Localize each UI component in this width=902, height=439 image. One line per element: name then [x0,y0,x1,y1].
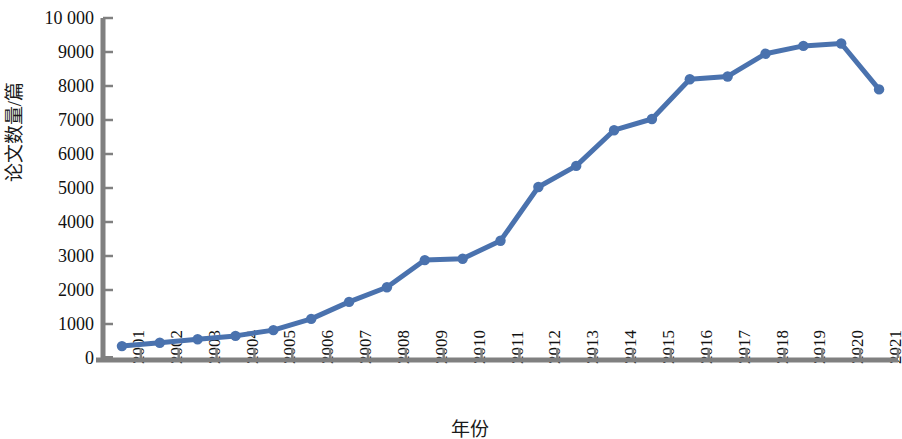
data-point [495,236,505,246]
data-point [192,334,202,344]
plot-area [0,0,902,439]
series-markers [117,38,885,351]
data-point [571,161,581,171]
data-series [117,38,885,351]
data-point [306,314,316,324]
x-axis-ticks [103,348,898,358]
axes [96,18,898,360]
data-point [722,71,732,81]
data-point [344,297,354,307]
data-point [874,84,884,94]
data-point [685,74,695,84]
data-point [420,255,430,265]
data-point [609,125,619,135]
series-line [122,44,879,347]
data-point [533,182,543,192]
data-point [230,331,240,341]
data-point [155,338,165,348]
data-point [798,41,808,51]
data-point [457,254,467,264]
data-point [647,114,657,124]
line-chart: 论文数量/篇 年份 010002000300040005000600070008… [0,0,902,439]
data-point [382,282,392,292]
data-point [760,49,770,59]
data-point [836,38,846,48]
data-point [117,341,127,351]
data-point [268,325,278,335]
